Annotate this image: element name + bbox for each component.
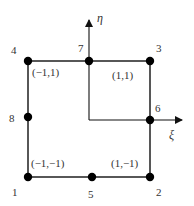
- coord-label-bottom-right: (1,−1): [111, 157, 139, 170]
- node-2: [146, 173, 154, 181]
- xi-label: ξ: [169, 128, 175, 142]
- node-1: [24, 173, 32, 181]
- eta-label: η: [97, 11, 103, 25]
- node-7: [85, 57, 93, 65]
- node-label-6: 6: [155, 102, 161, 114]
- coord-label-bottom-left: (−1,−1): [31, 157, 65, 170]
- node-label-7: 7: [78, 42, 84, 54]
- node-4: [24, 57, 32, 65]
- coord-label-top-left: (−1,1): [32, 66, 60, 79]
- node-8: [24, 113, 32, 121]
- node-5: [88, 173, 96, 181]
- node-label-2: 2: [156, 186, 162, 198]
- element-diagram: η ξ 1 2 3 4 5 6 7 8 (−1,1) (1,1) (−1,−1)…: [0, 0, 194, 206]
- node-label-4: 4: [11, 44, 17, 56]
- node-3: [146, 57, 154, 65]
- node-label-8: 8: [9, 112, 15, 124]
- node-6: [146, 116, 154, 124]
- node-label-5: 5: [88, 188, 94, 200]
- node-label-3: 3: [156, 42, 162, 54]
- node-label-1: 1: [12, 186, 18, 198]
- coord-label-top-right: (1,1): [112, 69, 133, 82]
